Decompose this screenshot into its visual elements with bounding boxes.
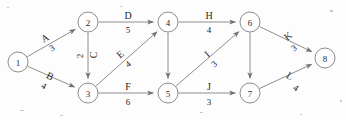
scan-speck-5 [120, 6, 122, 7]
edge-weight-J: 3 [207, 97, 212, 107]
edge-weight-C: 2 [75, 54, 85, 59]
edge-name-F: F [125, 81, 131, 92]
edge-name-I: I [202, 49, 212, 60]
scan-speck-1 [330, 10, 333, 12]
edge-name-C: C [88, 51, 99, 58]
edge-name-J: J [207, 81, 211, 92]
edge-weight-F: 6 [126, 97, 131, 107]
edges-layer [27, 22, 312, 93]
scan-speck-3 [200, 112, 203, 113]
graph-node-7[interactable]: 7 [240, 83, 260, 103]
scan-speck-0 [7, 7, 9, 8]
node-label-8: 8 [323, 54, 328, 64]
edge-weight-H: 4 [207, 25, 212, 35]
edge-name-D: D [124, 10, 131, 21]
scan-speck-2 [20, 110, 24, 111]
edge-name-E: E [114, 48, 126, 60]
edge-name-H: H [205, 10, 212, 21]
graph-node-5[interactable]: 5 [158, 83, 178, 103]
node-label-7: 7 [248, 89, 253, 99]
edge-name-L: L [284, 70, 295, 83]
edge-weight-I: 3 [209, 58, 219, 69]
graph-node-4[interactable]: 4 [158, 12, 178, 32]
graph-node-2[interactable]: 2 [78, 12, 98, 32]
graph-node-6[interactable]: 6 [240, 12, 260, 32]
scan-speck-6 [60, 115, 63, 116]
graph-figure: 12345678 A3B4C2D5E4F6H4I3J3K3L4 [0, 0, 346, 120]
edge-weight-E: 4 [123, 58, 133, 69]
graph-canvas: 12345678 A3B4C2D5E4F6H4I3J3K3L4 [0, 0, 346, 120]
graph-node-8[interactable]: 8 [315, 48, 335, 68]
scan-speck-7 [300, 114, 302, 115]
node-label-6: 6 [248, 18, 253, 28]
edge-weight-L: 4 [291, 83, 301, 94]
edge-5-to-6 [176, 31, 239, 86]
edge-name-K: K [282, 29, 295, 43]
nodes-layer: 12345678 [8, 12, 335, 103]
edge-weight-D: 5 [126, 25, 131, 35]
node-label-2: 2 [86, 18, 91, 28]
graph-node-1[interactable]: 1 [8, 52, 28, 72]
node-label-1: 1 [16, 58, 21, 68]
edge-weight-B: 4 [40, 81, 49, 92]
edge-weight-K: 3 [289, 42, 299, 53]
node-label-3: 3 [86, 89, 91, 99]
node-label-4: 4 [166, 18, 171, 28]
node-label-5: 5 [166, 89, 171, 99]
scan-speck-4 [340, 100, 342, 102]
edge-weight-A: 3 [48, 42, 57, 53]
graph-node-3[interactable]: 3 [78, 83, 98, 103]
